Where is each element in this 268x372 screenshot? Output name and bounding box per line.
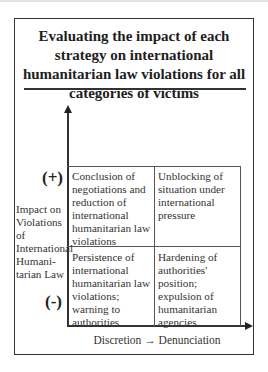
y-label-line: Violations [16, 216, 68, 229]
quadrant-top-left: Conclusion of negotiations and reduction… [72, 170, 154, 248]
diagram-title: Evaluating the impact of each strategy o… [14, 27, 254, 103]
y-axis-arrow-icon [64, 105, 72, 113]
y-low-marker: (-) [45, 292, 62, 312]
top-border-line [0, 0, 268, 2]
y-label-line: tarian Law [16, 268, 68, 281]
y-high-marker: (+) [42, 168, 63, 188]
quadrant-top-right: Unblocking of situation under internatio… [158, 170, 240, 222]
x-axis-arrow-icon [245, 322, 253, 330]
y-label-line: Impact on [16, 203, 68, 216]
y-label-line: Humani- [16, 255, 68, 268]
y-label-line: International [16, 242, 68, 255]
y-axis-label: Impact on Violations of International Hu… [16, 203, 68, 281]
y-label-line: of [16, 229, 68, 242]
x-axis-label: Discretion → Denunciation [67, 334, 247, 346]
quadrant-vertical-divider [154, 166, 155, 326]
title-divider [24, 88, 246, 90]
quadrant-bottom-right: Hardening of authorities' position; expu… [158, 251, 242, 329]
quadrant-bottom-left: Persistence of international humanitaria… [72, 251, 154, 329]
